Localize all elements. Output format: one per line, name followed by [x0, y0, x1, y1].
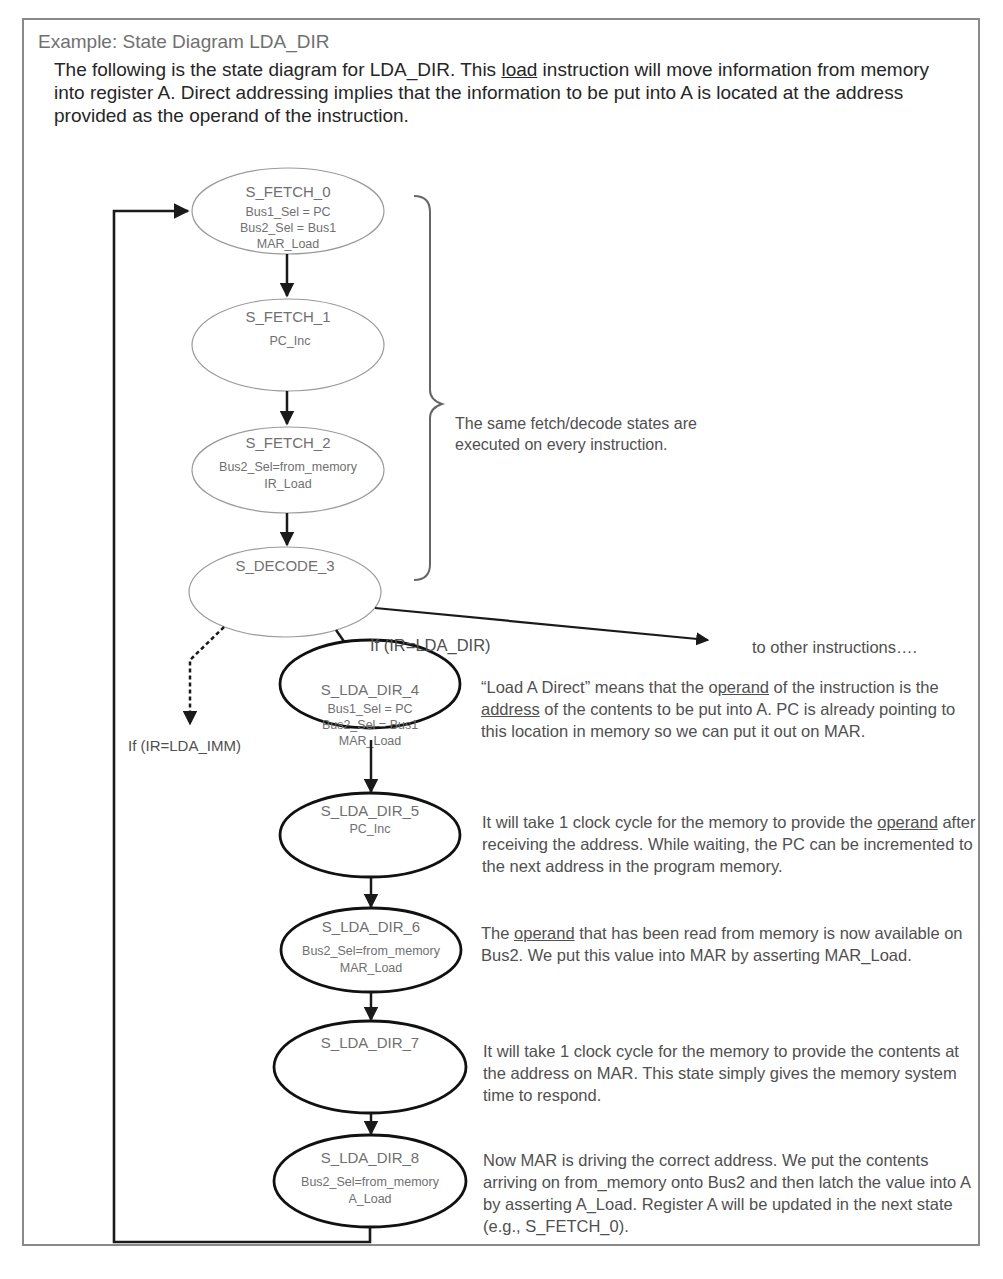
svg-text:Bus2_Sel=from_memory: Bus2_Sel=from_memory: [301, 1175, 440, 1189]
svg-text:S_LDA_DIR_7: S_LDA_DIR_7: [321, 1034, 419, 1051]
svg-text:S_LDA_DIR_6: S_LDA_DIR_6: [322, 918, 420, 935]
svg-text:IR_Load: IR_Load: [264, 477, 311, 491]
svg-text:Bus1_Sel = PC: Bus1_Sel = PC: [327, 702, 412, 716]
state-s-lda-dir-5: S_LDA_DIR_5 PC_Inc: [280, 793, 460, 877]
svg-text:S_DECODE_3: S_DECODE_3: [235, 557, 334, 574]
svg-text:MAR_Load: MAR_Load: [340, 961, 403, 975]
annotation-s-lda-dir-5: It will take 1 clock cycle for the memor…: [482, 811, 982, 877]
svg-text:S_LDA_DIR_5: S_LDA_DIR_5: [321, 802, 419, 819]
svg-text:Bus2_Sel=from_memory: Bus2_Sel=from_memory: [219, 460, 358, 474]
state-s-fetch-1: S_FETCH_1 PC_Inc: [192, 299, 384, 391]
state-s-fetch-2: S_FETCH_2 Bus2_Sel=from_memory IR_Load: [192, 427, 384, 513]
svg-text:A_Load: A_Load: [348, 1192, 391, 1206]
svg-text:Bus2_Sel = Bus1: Bus2_Sel = Bus1: [322, 718, 418, 732]
annotation-s-lda-dir-4: “Load A Direct” means that the operand o…: [481, 676, 981, 742]
transition-label-lda-dir: If (IR=LDA_DIR): [370, 636, 491, 655]
state-s-lda-dir-4: S_LDA_DIR_4 Bus1_Sel = PC Bus2_Sel = Bus…: [280, 640, 460, 748]
transition-label-other: to other instructions….: [752, 638, 917, 657]
svg-text:Bus2_Sel = Bus1: Bus2_Sel = Bus1: [240, 221, 336, 235]
annotation-s-lda-dir-8: Now MAR is driving the correct address. …: [483, 1149, 973, 1237]
svg-text:S_FETCH_1: S_FETCH_1: [245, 308, 330, 325]
arrow-decode-lda-imm: [190, 627, 224, 724]
transition-label-lda-imm: If (IR=LDA_IMM): [128, 737, 241, 754]
svg-text:S_FETCH_0: S_FETCH_0: [245, 183, 330, 200]
svg-text:MAR_Load: MAR_Load: [257, 237, 320, 251]
state-s-lda-dir-6: S_LDA_DIR_6 Bus2_Sel=from_memory MAR_Loa…: [281, 908, 461, 992]
svg-text:S_LDA_DIR_4: S_LDA_DIR_4: [321, 681, 419, 698]
brace-fetch-decode: [414, 196, 442, 580]
svg-text:Bus1_Sel = PC: Bus1_Sel = PC: [245, 205, 330, 219]
svg-text:S_FETCH_2: S_FETCH_2: [245, 434, 330, 451]
brace-note: The same fetch/decode states are execute…: [455, 413, 715, 455]
svg-text:Bus2_Sel=from_memory: Bus2_Sel=from_memory: [302, 944, 441, 958]
annotation-s-lda-dir-6: The operand that has been read from memo…: [481, 922, 981, 966]
svg-text:S_LDA_DIR_8: S_LDA_DIR_8: [321, 1149, 419, 1166]
state-s-lda-dir-8: S_LDA_DIR_8 Bus2_Sel=from_memory A_Load: [274, 1135, 466, 1227]
state-s-decode-3: S_DECODE_3: [189, 547, 381, 637]
state-s-fetch-0: S_FETCH_0 Bus1_Sel = PC Bus2_Sel = Bus1 …: [192, 168, 384, 254]
svg-text:PC_Inc: PC_Inc: [270, 334, 311, 348]
svg-text:PC_Inc: PC_Inc: [350, 822, 391, 836]
state-s-lda-dir-7: S_LDA_DIR_7: [274, 1021, 466, 1113]
annotation-s-lda-dir-7: It will take 1 clock cycle for the memor…: [483, 1040, 973, 1106]
